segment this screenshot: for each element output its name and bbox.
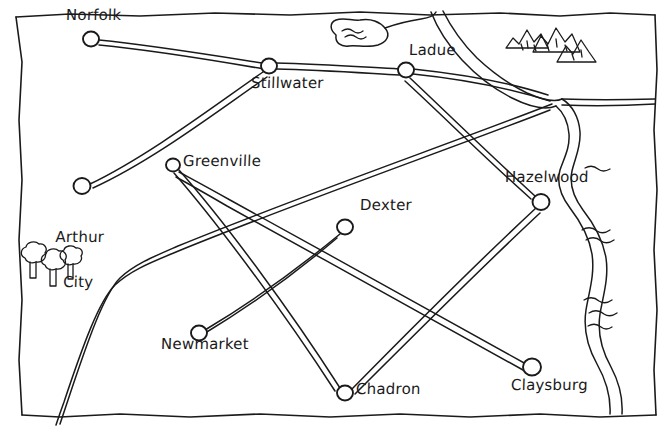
city-node-chadron [337, 386, 353, 401]
city-node-stillwater [261, 59, 277, 74]
mountain-range [506, 28, 596, 62]
road-stillwater-ladue [276, 63, 655, 106]
city-label-hazelwood: Hazelwood [505, 170, 589, 185]
city-label-arthur-city-line2: City [40, 275, 117, 290]
city-label-chadron: Chadron [356, 382, 421, 397]
city-label-arthur-city: Arthur City [39, 200, 119, 320]
city-label-arthur-city-line1: Arthur [42, 230, 119, 245]
road-stillwater-arthurcity [90, 72, 267, 188]
city-node-hazelwood [533, 194, 550, 210]
road-hazelwood-chadron [351, 208, 540, 394]
road-norfolk-stillwater [99, 40, 264, 69]
city-label-dexter: Dexter [360, 198, 412, 213]
city-node-arthur-city [74, 178, 91, 194]
city-label-greenville: Greenville [183, 154, 262, 169]
city-label-ladue: Ladue [409, 43, 456, 58]
city-label-newmarket: Newmarket [161, 337, 249, 352]
city-node-greenville [166, 159, 180, 172]
road-greenville-chadron [174, 170, 340, 391]
city-node-norfolk [83, 32, 99, 47]
map-canvas: .ink { fill:none; stroke:#1a1a1a; stroke… [0, 0, 670, 430]
city-label-claysburg: Claysburg [511, 378, 588, 393]
city-label-stillwater: Stillwater [251, 76, 324, 91]
river [431, 11, 622, 414]
city-node-ladue [398, 63, 414, 78]
city-node-dexter [337, 220, 353, 235]
city-node-claysburg [523, 359, 541, 376]
city-label-norfolk: Norfolk [66, 8, 122, 23]
